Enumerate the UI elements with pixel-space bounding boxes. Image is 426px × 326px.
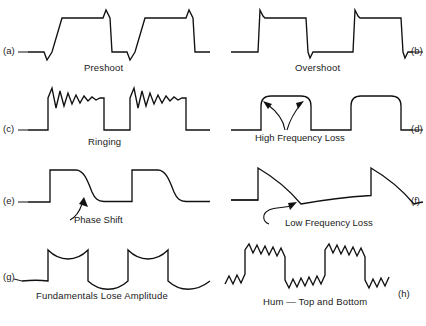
panel-g-fundamentals-lose-amplitude: (g) Fundamentals Lose Amplitude (0, 240, 213, 326)
panel-e-annotation: Phase Shift (74, 214, 123, 225)
panel-c-ringing: (c) Ringing (0, 82, 213, 160)
panel-b-waveform (213, 0, 426, 70)
panel-f-arrow-head (288, 202, 297, 210)
panel-d-arrow-left-line (267, 104, 285, 130)
panel-d-annotation: High Frequency Loss (255, 132, 345, 143)
panel-h-waveform (213, 240, 426, 298)
panel-c-waveform (0, 82, 213, 144)
panel-b-overshoot: (b) Overshoot (213, 0, 426, 82)
panel-g-caption: Fundamentals Lose Amplitude (36, 290, 168, 301)
panel-h-hum: (h) Hum — Top and Bottom (213, 240, 426, 326)
panel-d-high-frequency-loss: (d) High Frequency Loss (213, 82, 426, 160)
square-wave-distortion-figure: (a) Preshoot (b) Overshoot (c) Ringing (… (0, 0, 426, 326)
panel-d-arrow-left-head (263, 101, 272, 109)
panel-a-caption: Preshoot (84, 62, 123, 73)
panel-b-letter: (b) (411, 45, 423, 56)
panel-h-caption: Hum — Top and Bottom (263, 296, 367, 307)
panel-e-arrow-head (79, 197, 88, 207)
panel-a-waveform (0, 0, 213, 70)
panel-d-letter: (d) (411, 123, 423, 134)
panel-f-letter: (f) (411, 195, 420, 206)
panel-a-letter: (a) (3, 45, 15, 56)
panel-d-arrow-right-head (296, 101, 304, 109)
panel-h-letter: (h) (398, 288, 410, 299)
panel-d-arrow-right-line (287, 104, 301, 130)
panel-a-preshoot: (a) Preshoot (0, 0, 213, 82)
panel-f-annotation: Low Frequency Loss (285, 217, 373, 228)
panel-f-low-frequency-loss: (f) Low Frequency Loss (213, 160, 426, 240)
panel-c-letter: (c) (3, 123, 14, 134)
panel-g-letter: (g) (3, 271, 15, 282)
panel-e-phase-shift: (e) Phase Shift (0, 160, 213, 240)
panel-b-caption: Overshoot (295, 62, 340, 73)
panel-g-leader-line (14, 279, 22, 281)
panel-e-letter: (e) (3, 195, 15, 206)
panel-c-caption: Ringing (88, 136, 121, 147)
